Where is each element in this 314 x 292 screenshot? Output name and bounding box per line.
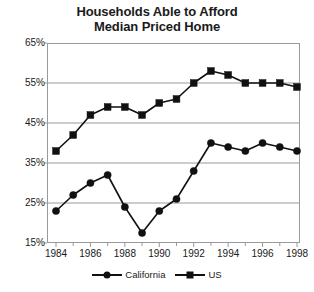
legend-item-us: US	[175, 269, 221, 280]
y-axis-tick-label: 45%	[3, 118, 45, 128]
data-point-california	[242, 147, 249, 154]
data-point-us	[87, 112, 94, 119]
legend-item-california: California	[92, 269, 165, 280]
legend-label-us: US	[208, 269, 221, 280]
data-point-us	[190, 80, 197, 87]
chart-legend: California US	[0, 269, 314, 280]
data-point-california	[156, 207, 163, 214]
data-point-us	[225, 72, 232, 79]
data-point-california	[190, 167, 197, 174]
data-point-us	[208, 68, 215, 75]
data-point-us	[276, 80, 283, 87]
data-point-california	[173, 195, 180, 202]
data-point-california	[104, 171, 111, 178]
data-point-california	[276, 143, 283, 150]
data-point-california	[259, 139, 266, 146]
data-point-us	[70, 132, 77, 139]
data-point-us	[156, 100, 163, 107]
data-point-california	[207, 139, 214, 146]
data-point-california	[52, 207, 59, 214]
y-axis-tick-label: 65%	[3, 38, 45, 48]
data-point-california	[121, 203, 128, 210]
y-axis-tick-label: 25%	[3, 198, 45, 208]
data-point-us	[139, 112, 146, 119]
data-point-california	[70, 191, 77, 198]
series-line-california	[56, 143, 297, 233]
data-point-california	[293, 147, 300, 154]
data-point-us	[294, 84, 301, 91]
x-axis-tick-label: 1998	[275, 249, 314, 259]
data-point-us	[173, 96, 180, 103]
legend-label-california: California	[125, 269, 165, 280]
data-point-us	[121, 104, 128, 111]
circle-marker-icon	[104, 271, 111, 278]
data-point-california	[225, 143, 232, 150]
data-point-us	[259, 80, 266, 87]
legend-line-california	[92, 274, 122, 276]
chart-container: Households Able to Afford Median Priced …	[0, 0, 314, 292]
data-point-us	[104, 104, 111, 111]
square-marker-icon	[187, 271, 194, 278]
y-axis-tick-label: 35%	[3, 158, 45, 168]
y-axis-tick-label: 15%	[3, 238, 45, 248]
y-axis-tick-label: 55%	[3, 78, 45, 88]
legend-line-us	[175, 274, 205, 276]
data-point-us	[242, 80, 249, 87]
data-point-us	[53, 148, 60, 155]
data-point-california	[138, 229, 145, 236]
data-point-california	[87, 179, 94, 186]
